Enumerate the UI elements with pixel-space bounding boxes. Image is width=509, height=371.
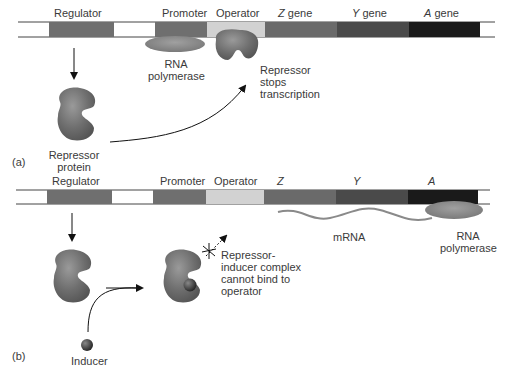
label-inducer: Inducer bbox=[71, 355, 108, 367]
repressor-bound-a bbox=[216, 29, 259, 60]
dna-strand-a bbox=[18, 22, 495, 37]
operator-segment-b bbox=[206, 190, 264, 204]
repressor-inducer-complex bbox=[164, 250, 202, 303]
complex-line3: cannot bind to bbox=[221, 273, 301, 285]
rna-polymerase-line1: RNA bbox=[440, 230, 496, 242]
dna-strand-b bbox=[16, 190, 490, 204]
rna-polymerase-line1: RNA bbox=[148, 58, 204, 70]
mrna-strand bbox=[278, 209, 432, 220]
promoter-segment-b bbox=[153, 190, 206, 204]
panel-tag-a: (a) bbox=[12, 156, 25, 168]
complex-line4: operator bbox=[221, 285, 301, 297]
label-repressor-protein: Repressor protein bbox=[46, 149, 102, 173]
rna-polymerase-b bbox=[425, 201, 483, 219]
label-z-b: Z bbox=[277, 175, 284, 187]
block-x-icon bbox=[202, 243, 216, 259]
panel-tag-b: (b) bbox=[12, 350, 25, 362]
arrow-repressor-to-operator-a bbox=[110, 86, 245, 142]
label-repressor-stops: Repressor stops transcription bbox=[260, 64, 320, 100]
label-a-gene-a: A gene bbox=[424, 7, 459, 19]
repressor-stops-line1: Repressor bbox=[260, 64, 320, 76]
repressor-protein-b bbox=[54, 250, 92, 303]
bound-inducer bbox=[184, 279, 197, 292]
repressor-protein-line2: protein bbox=[46, 161, 102, 173]
z-letter: Z bbox=[278, 7, 285, 19]
y-gene-segment-a bbox=[337, 22, 409, 37]
promoter-segment-a bbox=[155, 22, 207, 37]
repressor-stops-line2: stops bbox=[260, 76, 320, 88]
gene-word: gene bbox=[362, 7, 386, 19]
label-z-gene-a: Z gene bbox=[278, 7, 312, 19]
regulator-segment-a bbox=[49, 22, 114, 37]
arrow-inducer-binding bbox=[88, 288, 138, 332]
label-promoter-a: Promoter bbox=[162, 7, 207, 19]
label-promoter-b: Promoter bbox=[160, 175, 205, 187]
label-operator-b: Operator bbox=[214, 175, 257, 187]
rna-polymerase-a bbox=[145, 36, 205, 52]
a-gene-segment-a bbox=[409, 22, 480, 37]
z-gene-segment-a bbox=[265, 22, 337, 37]
label-y-b: Y bbox=[353, 175, 360, 187]
y-letter: Y bbox=[352, 7, 359, 19]
label-regulator-b: Regulator bbox=[52, 175, 100, 187]
a-letter: A bbox=[424, 7, 431, 19]
repressor-protein-a bbox=[58, 88, 96, 141]
regulator-segment-b bbox=[47, 190, 112, 204]
complex-line2: inducer complex bbox=[221, 261, 301, 273]
label-rna-polymerase-a: RNA polymerase bbox=[148, 58, 204, 82]
rna-polymerase-line2: polymerase bbox=[148, 70, 204, 82]
label-y-gene-a: Y gene bbox=[352, 7, 387, 19]
inducer-molecule bbox=[81, 339, 93, 351]
repressor-protein-line1: Repressor bbox=[46, 149, 102, 161]
label-repressor-inducer-complex: Repressor- inducer complex cannot bind t… bbox=[221, 249, 301, 297]
y-gene-segment-b bbox=[336, 190, 408, 204]
label-regulator-a: Regulator bbox=[54, 7, 102, 19]
complex-line1: Repressor- bbox=[221, 249, 301, 261]
label-rna-polymerase-b: RNA polymerase bbox=[440, 230, 496, 254]
repressor-stops-line3: transcription bbox=[260, 88, 320, 100]
label-a-b: A bbox=[428, 175, 435, 187]
gene-word: gene bbox=[288, 7, 312, 19]
label-mrna: mRNA bbox=[333, 231, 365, 243]
z-gene-segment-b bbox=[264, 190, 336, 204]
label-operator-a: Operator bbox=[216, 7, 259, 19]
gene-word: gene bbox=[434, 7, 458, 19]
rna-polymerase-line2: polymerase bbox=[440, 242, 496, 254]
